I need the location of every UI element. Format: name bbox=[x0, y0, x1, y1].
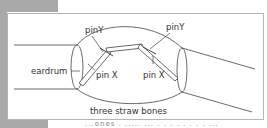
leader-pin-y-left bbox=[92, 36, 103, 52]
tube-top-line bbox=[182, 48, 255, 69]
leader-pin-y-right bbox=[150, 33, 170, 49]
straw-bone-left bbox=[79, 50, 111, 86]
label-pin-y-left: pinY bbox=[85, 25, 104, 35]
label-pin-x-left: pin X bbox=[96, 70, 118, 80]
middle-ear-bottom-outline bbox=[77, 89, 182, 104]
label-pin-y-right: pinY bbox=[166, 22, 185, 32]
straw-bone-middle bbox=[106, 44, 143, 52]
tube-bottom-line bbox=[182, 92, 252, 112]
label-eardrum: eardrum bbox=[31, 66, 67, 76]
ear-model-diagram: pinY pinY pin X pin X eardrum three stra… bbox=[0, 0, 267, 128]
label-bones: three straw bones bbox=[90, 106, 168, 116]
label-pin-x-right: pin X bbox=[143, 70, 165, 80]
inner-ear-shape bbox=[177, 48, 187, 92]
caption-text-cutoff: ...ones . ..... ... . . . . . . . . ... bbox=[85, 120, 219, 128]
